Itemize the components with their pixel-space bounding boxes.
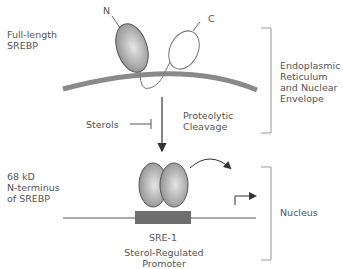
n-label: N	[103, 5, 110, 16]
fragment-label: 68 kD N-terminus of SREBP	[7, 171, 60, 204]
srebp-n-domain	[110, 20, 154, 77]
cleavage-label: Proteolytic Cleavage	[183, 110, 233, 132]
n-terminus-line	[112, 16, 120, 28]
nucleus-bracket	[261, 167, 271, 260]
srebp-diagram: Full-length SREBP N C Endoplasmic Reticu…	[0, 0, 343, 269]
sre-label: SRE-1	[140, 232, 186, 243]
sterols-label: Sterols	[86, 119, 119, 130]
er-label: Endoplasmic Reticulum and Nuclear Envelo…	[280, 60, 340, 104]
transcription-start-arrow	[235, 196, 255, 205]
promoter-label: Sterol-Regulated Promoter	[120, 247, 208, 269]
srebp-c-domain	[163, 26, 205, 74]
sre-1-box	[135, 211, 191, 224]
activation-arrow	[190, 159, 230, 168]
er-bracket	[261, 28, 271, 133]
c-terminus-line	[193, 22, 200, 31]
nterm-dimer-right	[160, 163, 188, 207]
full-length-label: Full-length SREBP	[7, 29, 57, 51]
membrane	[63, 74, 257, 90]
c-label: C	[208, 13, 215, 24]
nucleus-label: Nucleus	[280, 207, 318, 218]
